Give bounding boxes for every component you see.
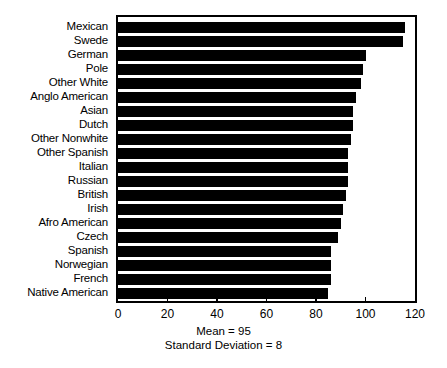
bar-row [118, 119, 415, 133]
chart-annotations: Mean = 95 Standard Deviation = 8 [0, 324, 447, 352]
bar [118, 36, 403, 47]
bar-row [118, 133, 415, 147]
bar [118, 246, 331, 257]
bar-row [118, 231, 415, 245]
bar-row [118, 49, 415, 63]
bar-row [118, 189, 415, 203]
bar [118, 204, 343, 215]
category-label: Native American [0, 285, 112, 299]
category-label: German [0, 47, 112, 61]
category-label: Russian [0, 173, 112, 187]
x-tick-mark [167, 297, 169, 303]
chart-figure: MexicanSwedeGermanPoleOther WhiteAnglo A… [0, 0, 447, 368]
bar-row [118, 147, 415, 161]
plot-area [116, 15, 417, 303]
bar [118, 106, 353, 117]
bar [118, 190, 346, 201]
x-tick-label: 120 [405, 307, 425, 321]
bar-row [118, 245, 415, 259]
bar [118, 288, 328, 299]
category-label: Irish [0, 201, 112, 215]
bar [118, 120, 353, 131]
x-tick-label: 100 [355, 307, 375, 321]
category-label: Asian [0, 103, 112, 117]
bar [118, 64, 363, 75]
category-label: Italian [0, 159, 112, 173]
x-tick-mark [365, 297, 367, 303]
x-tick-label: 20 [161, 307, 174, 321]
category-label: Dutch [0, 117, 112, 131]
bar-row [118, 217, 415, 231]
sd-annotation: Standard Deviation = 8 [0, 338, 447, 352]
category-axis-labels: MexicanSwedeGermanPoleOther WhiteAnglo A… [0, 19, 112, 299]
category-label: Czech [0, 229, 112, 243]
category-label: Pole [0, 61, 112, 75]
bar-row [118, 105, 415, 119]
bar [118, 78, 361, 89]
bar [118, 162, 348, 173]
bar [118, 260, 331, 271]
x-tick-mark [216, 297, 218, 303]
bar-row [118, 35, 415, 49]
bar [118, 232, 338, 243]
category-label: Spanish [0, 243, 112, 257]
category-label: Other Nonwhite [0, 131, 112, 145]
category-label: Norwegian [0, 257, 112, 271]
bar-row [118, 63, 415, 77]
category-label: Afro American [0, 215, 112, 229]
bar-row [118, 91, 415, 105]
x-tick-label: 0 [115, 307, 122, 321]
x-tick-label: 80 [309, 307, 322, 321]
bar-row [118, 259, 415, 273]
category-label: Other Spanish [0, 145, 112, 159]
bar-row [118, 203, 415, 217]
bar [118, 50, 366, 61]
category-label: Anglo American [0, 89, 112, 103]
category-label: British [0, 187, 112, 201]
bar-row [118, 273, 415, 287]
x-tick-mark [315, 297, 317, 303]
x-tick-label: 40 [210, 307, 223, 321]
category-label: Other White [0, 75, 112, 89]
bar-row [118, 21, 415, 35]
x-tick-label: 60 [260, 307, 273, 321]
bar-row [118, 77, 415, 91]
bar [118, 176, 348, 187]
category-label: French [0, 271, 112, 285]
bar [118, 274, 331, 285]
bar-series [118, 21, 415, 301]
bar [118, 148, 348, 159]
bar [118, 22, 405, 33]
bar-row [118, 175, 415, 189]
x-tick-mark [266, 297, 268, 303]
bar [118, 134, 351, 145]
mean-annotation: Mean = 95 [0, 324, 447, 338]
bar-row [118, 161, 415, 175]
category-label: Mexican [0, 19, 112, 33]
category-label: Swede [0, 33, 112, 47]
bar [118, 92, 356, 103]
bar [118, 218, 341, 229]
